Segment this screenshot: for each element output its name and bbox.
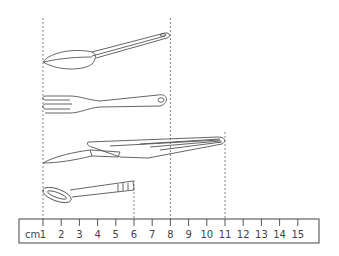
ruler-tick-label: 15 (291, 229, 304, 240)
ruler-tick-label: 7 (149, 229, 155, 240)
ruler-tick-label: 12 (237, 229, 250, 240)
ruler-tick-label: 2 (58, 229, 64, 240)
ruler-tick-label: 1 (40, 229, 46, 240)
key-illustration (41, 181, 134, 206)
ruler-unit-label: cm (25, 229, 40, 240)
ruler-tick-label: 10 (200, 229, 213, 240)
ruler-tick-label: 14 (273, 229, 286, 240)
spoon-illustration (43, 33, 169, 69)
ruler-tick-label: 9 (185, 229, 191, 240)
ruler-tick-label: 3 (76, 229, 82, 240)
fork-illustration (43, 95, 167, 113)
ruler-tick-label: 4 (94, 229, 100, 240)
ruler-tick-label: 11 (219, 229, 232, 240)
ruler: cm 123456789101112131415 (19, 219, 319, 243)
ruler-tick-label: 6 (131, 229, 137, 240)
ruler-tick-label: 13 (255, 229, 268, 240)
ruler-tick-label: 5 (113, 229, 119, 240)
spatula-illustration (43, 137, 225, 163)
ruler-tick-label: 8 (167, 229, 173, 240)
measurement-diagram: cm 123456789101112131415 (0, 0, 339, 256)
guide-lines (43, 18, 225, 225)
